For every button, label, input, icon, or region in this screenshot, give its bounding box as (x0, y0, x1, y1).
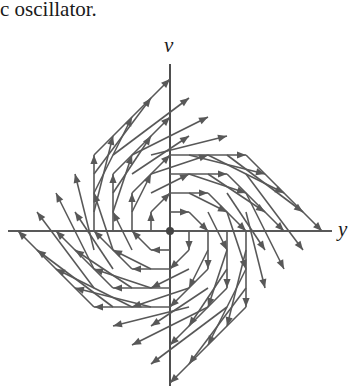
arrowhead-icon (257, 241, 265, 250)
vector-arrow (94, 79, 170, 155)
arrowhead-icon (132, 338, 142, 345)
arrowhead-icon (132, 265, 141, 272)
arrowhead-icon (189, 278, 196, 288)
arrowhead-icon (185, 241, 192, 250)
vector-arrow (113, 307, 189, 326)
vector-arrow (227, 174, 284, 231)
arrowhead-icon (180, 208, 189, 215)
arrowhead-icon (75, 250, 84, 258)
arrowhead-icon (223, 279, 230, 288)
arrowhead-icon (90, 155, 97, 164)
arrowhead-icon (113, 284, 122, 291)
arrowhead-icon (94, 303, 103, 310)
arrowhead-icon (189, 317, 197, 326)
arrowhead-icon (56, 193, 63, 203)
arrowhead-icon (277, 259, 284, 269)
arrowhead-icon (180, 98, 189, 106)
vector-arrow (170, 288, 227, 345)
arrowhead-icon (179, 174, 189, 181)
arrowhead-icon (151, 356, 160, 364)
arrowhead-icon (218, 170, 227, 177)
arrowhead-icon (151, 281, 161, 288)
equilibrium-point (166, 227, 174, 235)
horizontal-axis-label: y (336, 217, 348, 241)
phase-plane-diagram: y v (0, 0, 354, 388)
arrowhead-icon (113, 250, 123, 257)
vector-arrow (151, 136, 227, 155)
vector-arrow (75, 174, 94, 250)
arrowhead-icon (132, 301, 142, 308)
vector-arrow (246, 174, 303, 250)
arrowhead-icon (93, 193, 100, 203)
arrowhead-icon (75, 212, 83, 221)
arrowhead-icon (56, 269, 66, 276)
vector-arrow (227, 155, 303, 212)
arrowhead-icon (208, 335, 215, 345)
arrowhead-icon (37, 212, 45, 221)
arrowhead-icon (295, 241, 303, 250)
vector-arrow (37, 212, 94, 288)
arrowhead-icon (180, 136, 189, 144)
vector-arrow (113, 98, 189, 155)
arrowhead-icon (151, 246, 160, 253)
arrowhead-icon (128, 193, 135, 202)
vertical-axis-label: v (164, 33, 174, 57)
arrowhead-icon (113, 212, 120, 222)
arrowhead-icon (237, 151, 246, 158)
vector-arrow (246, 155, 322, 231)
arrowhead-icon (204, 260, 211, 269)
vector-arrow (151, 307, 227, 364)
arrowhead-icon (198, 117, 208, 124)
arrowhead-icon (151, 318, 160, 326)
arrowhead-icon (220, 240, 227, 250)
arrowhead-icon (147, 212, 154, 221)
vector-arrow (113, 117, 170, 174)
vector-arrow (56, 231, 113, 288)
arrowhead-icon (199, 189, 208, 196)
arrowhead-icon (109, 174, 116, 183)
vector-arrow (94, 98, 151, 174)
vector-arrow (227, 250, 246, 326)
arrowhead-icon (242, 298, 249, 307)
vector-arrow (246, 212, 265, 288)
